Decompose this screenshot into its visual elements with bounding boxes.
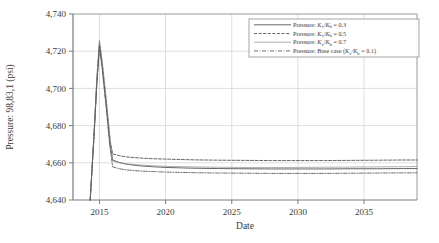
pressure-vs-date-line-chart: 4,6404,6604,6804,7004,7204,740 201520202…: [0, 0, 439, 243]
legend-suffix: = 0.1): [360, 47, 376, 55]
legend-suffix: = 0.7: [332, 38, 346, 45]
x-axis-title-label: Date: [236, 221, 254, 231]
y-tick-label: 4,640: [46, 195, 67, 205]
y-tick-label: 4,740: [46, 9, 67, 19]
y-axis-title-label: Pressure: 98,83,1 (psi): [5, 64, 16, 150]
x-tick-label: 2035: [355, 207, 374, 217]
legend-prefix: Pressure:: [293, 30, 317, 37]
chart-legend[interactable]: Pressure: Kv/Kh = 0.3Pressure: Kv/Kh = 0…: [249, 19, 419, 57]
legend-prefix: Pressure:: [293, 38, 317, 45]
x-tick-label: 2025: [223, 207, 242, 217]
x-axis-title: Date: [236, 221, 254, 231]
y-axis-title: Pressure: 98,83,1 (psi): [5, 64, 16, 150]
legend-suffix: = 0.3: [332, 21, 346, 28]
x-tick-label: 2020: [157, 207, 176, 217]
legend-prefix: Pressure:: [293, 21, 317, 28]
y-tick-label: 4,680: [46, 121, 67, 131]
y-tick-label: 4,660: [46, 158, 67, 168]
x-tick-label: 2015: [90, 207, 109, 217]
legend-suffix: = 0.5: [332, 30, 346, 37]
x-tick-label: 2030: [289, 207, 308, 217]
y-tick-label: 4,700: [46, 84, 67, 94]
y-tick-label: 4,720: [46, 46, 67, 56]
legend-prefix: Pressure: Base case (: [293, 47, 345, 55]
chart-figure: 4,6404,6604,6804,7004,7204,740 201520202…: [0, 0, 439, 243]
